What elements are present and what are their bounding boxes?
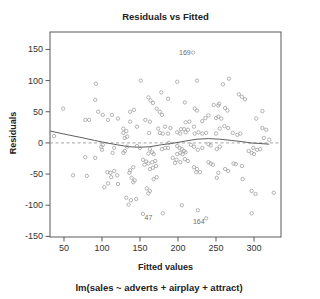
- data-point: [116, 117, 119, 120]
- data-point: [128, 110, 131, 113]
- data-point: [166, 97, 169, 100]
- x-tick-label: 300: [247, 243, 262, 253]
- data-point: [116, 174, 119, 177]
- data-point: [272, 191, 275, 194]
- data-point: [62, 107, 65, 110]
- data-point: [132, 108, 135, 111]
- data-point: [106, 182, 109, 185]
- data-point: [204, 131, 207, 134]
- data-point: [198, 171, 201, 174]
- data-point: [176, 152, 179, 155]
- data-point: [139, 79, 142, 82]
- x-tick-label: 100: [94, 243, 109, 253]
- data-point: [201, 146, 204, 149]
- data-point: [227, 77, 230, 80]
- data-point: [94, 82, 97, 85]
- plot-border: [50, 32, 281, 237]
- data-point: [84, 118, 87, 121]
- data-point: [195, 79, 198, 82]
- x-axis-label: Fitted values: [50, 262, 281, 272]
- data-point: [192, 125, 195, 128]
- data-point: [261, 126, 264, 129]
- data-point: [122, 131, 125, 134]
- data-point: [152, 177, 155, 180]
- data-point: [214, 132, 217, 135]
- data-point: [71, 174, 74, 177]
- data-point: [204, 116, 207, 119]
- data-point: [262, 136, 265, 139]
- data-point: [132, 166, 135, 169]
- data-point: [130, 176, 133, 179]
- data-point: [147, 131, 150, 134]
- data-point: [217, 171, 220, 174]
- data-point: [207, 114, 210, 117]
- x-tick-label: 150: [132, 243, 147, 253]
- data-point: [179, 161, 182, 164]
- data-point: [171, 156, 174, 159]
- outlier-point: [192, 51, 195, 54]
- data-point: [101, 113, 104, 116]
- data-point: [179, 132, 182, 135]
- data-point: [265, 128, 268, 131]
- data-point: [234, 162, 237, 165]
- data-point: [184, 131, 187, 134]
- data-point: [158, 110, 161, 113]
- data-point: [116, 182, 119, 185]
- data-point: [151, 101, 154, 104]
- data-point: [197, 131, 200, 134]
- data-point: [148, 120, 151, 123]
- x-tick-label: 250: [208, 243, 223, 253]
- data-point: [231, 131, 234, 134]
- data-point: [215, 176, 218, 179]
- data-point: [113, 146, 116, 149]
- data-point: [184, 121, 187, 124]
- y-tick-label: -50: [30, 169, 43, 179]
- data-point: [125, 196, 128, 199]
- data-point: [128, 120, 131, 123]
- data-point: [188, 120, 191, 123]
- data-point: [223, 124, 226, 127]
- data-point: [183, 101, 186, 104]
- data-point: [201, 132, 204, 135]
- data-point: [157, 127, 160, 130]
- data-point: [193, 132, 196, 135]
- data-point: [261, 109, 264, 112]
- data-point: [195, 109, 198, 112]
- data-point: [160, 91, 163, 94]
- outlier-point: [204, 217, 207, 220]
- data-point: [135, 197, 138, 200]
- data-point: [196, 209, 199, 212]
- data-point: [110, 113, 113, 116]
- outlier-label: 47: [145, 214, 153, 221]
- data-point: [160, 113, 163, 116]
- x-tick-label: 50: [59, 243, 69, 253]
- data-point: [145, 187, 148, 190]
- data-point: [135, 125, 138, 128]
- data-point: [196, 148, 199, 151]
- data-point: [212, 103, 215, 106]
- data-point: [113, 169, 116, 172]
- data-point: [94, 156, 97, 159]
- data-point: [243, 98, 246, 101]
- data-point: [127, 203, 130, 206]
- data-point: [148, 147, 151, 150]
- data-point: [237, 93, 240, 96]
- data-point: [254, 192, 257, 195]
- x-tick-label: 200: [170, 243, 185, 253]
- data-point: [176, 144, 179, 147]
- data-point: [227, 169, 230, 172]
- data-point: [129, 199, 132, 202]
- data-point: [111, 151, 114, 154]
- model-subtitle: lm(sales ~ adverts + airplay + attract): [28, 282, 290, 293]
- data-point: [221, 83, 224, 86]
- data-point: [180, 204, 183, 207]
- data-point: [186, 159, 189, 162]
- data-point: [122, 127, 125, 130]
- data-point: [85, 174, 88, 177]
- data-point: [218, 145, 221, 148]
- data-point: [106, 118, 109, 121]
- data-point: [161, 212, 164, 215]
- y-tick-label: 150: [28, 44, 43, 54]
- data-point: [143, 163, 146, 166]
- data-point: [250, 212, 253, 215]
